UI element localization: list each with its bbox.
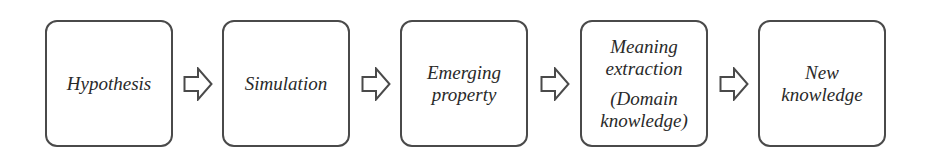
step-label: New bbox=[805, 62, 839, 84]
block-arrow-right-icon bbox=[183, 67, 213, 101]
step-sublabel: (Domain bbox=[610, 88, 678, 110]
block-arrow-right-icon bbox=[361, 67, 391, 101]
step-label: knowledge bbox=[781, 84, 862, 106]
step-sublabel: knowledge) bbox=[600, 110, 688, 132]
block-arrow-right-icon bbox=[540, 67, 570, 101]
step-new-knowledge: New knowledge bbox=[758, 20, 886, 147]
step-label: Simulation bbox=[245, 73, 327, 95]
step-emerging-property: Emerging property bbox=[400, 20, 528, 147]
step-simulation: Simulation bbox=[222, 20, 350, 147]
step-label: extraction bbox=[605, 58, 682, 80]
step-hypothesis: Hypothesis bbox=[45, 20, 173, 147]
step-label: property bbox=[432, 84, 497, 106]
step-label: Hypothesis bbox=[67, 73, 151, 95]
step-label: Meaning bbox=[610, 36, 678, 58]
block-arrow-right-icon bbox=[719, 67, 749, 101]
step-meaning-extraction: Meaning extraction (Domain knowledge) bbox=[580, 20, 708, 147]
step-label: Emerging bbox=[427, 62, 501, 84]
